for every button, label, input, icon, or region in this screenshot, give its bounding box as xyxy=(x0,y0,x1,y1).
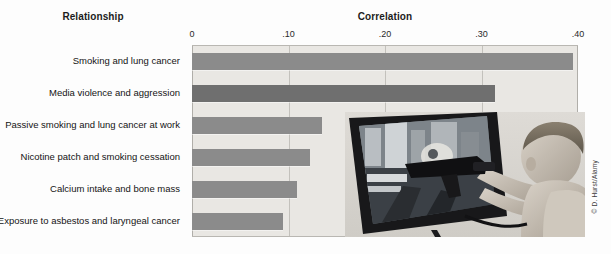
bar xyxy=(192,149,310,166)
column-heading-relationship: Relationship xyxy=(0,11,186,22)
bar xyxy=(192,181,297,198)
child-video-game-photo xyxy=(345,112,585,237)
category-label: Media violence and aggression xyxy=(49,84,180,101)
category-label: Calcium intake and bone mass xyxy=(50,180,180,197)
x-axis-tick-label: .20 xyxy=(379,29,392,39)
x-axis-tick-label: .30 xyxy=(475,29,488,39)
photo-illustration xyxy=(345,112,585,237)
category-label: Passive smoking and lung cancer at work xyxy=(5,116,180,133)
bar xyxy=(192,85,495,102)
column-heading-correlation: Correlation xyxy=(192,11,578,22)
bar xyxy=(192,213,283,230)
category-labels: Smoking and lung cancerMedia violence an… xyxy=(0,45,186,237)
category-label: Smoking and lung cancer xyxy=(73,52,180,69)
x-axis-tick-label: 0 xyxy=(189,29,194,39)
bar xyxy=(192,53,573,70)
x-axis-tick-labels: 0.10.20.30.40 xyxy=(192,29,578,42)
bar xyxy=(192,117,322,134)
correlation-bar-chart-figure: Relationship Correlation 0.10.20.30.40 S… xyxy=(0,0,611,254)
x-axis-tick-label: .40 xyxy=(572,29,585,39)
category-label: Nicotine patch and smoking cessation xyxy=(21,148,180,165)
x-axis-tick-label: .10 xyxy=(282,29,295,39)
photo-credit: © D. Hurst/Alamy xyxy=(591,160,598,214)
category-label: Exposure to asbestos and laryngeal cance… xyxy=(0,212,180,229)
